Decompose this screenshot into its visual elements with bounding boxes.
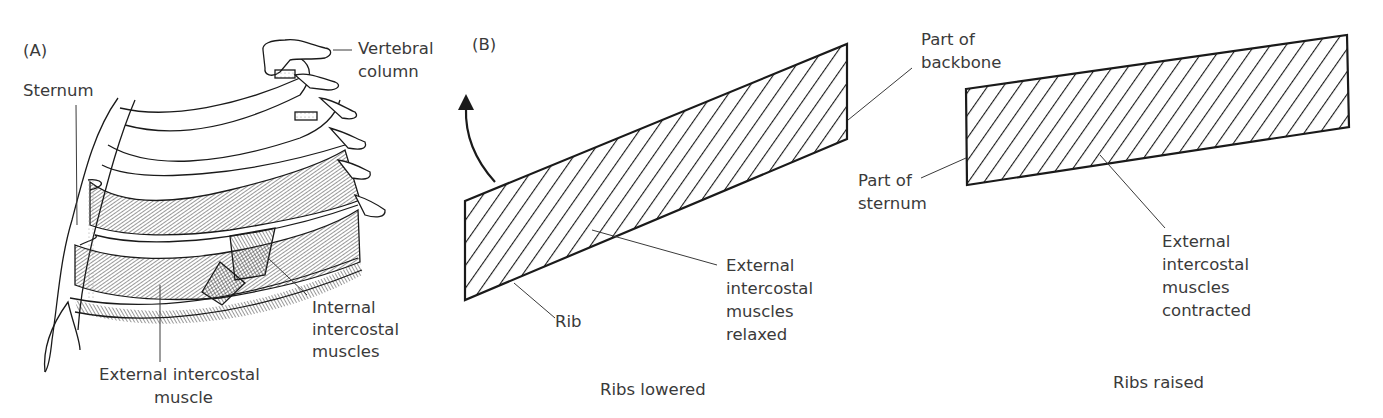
sternum-part-label-1: Part of	[858, 169, 912, 192]
muscles-relaxed-label-3: muscles	[726, 300, 794, 323]
diagram-canvas	[0, 0, 1383, 418]
muscles-contracted-label-1: External	[1162, 230, 1230, 253]
internal-intercostal-label-1: Internal	[312, 296, 376, 319]
muscles-relaxed-label-2: intercostal	[726, 277, 813, 300]
muscles-contracted-label-4: contracted	[1162, 299, 1251, 322]
rib-raised-block	[966, 35, 1349, 185]
internal-intercostal-label-3: muscles	[312, 340, 380, 363]
vertebral-column-label-1: Vertebral	[358, 37, 434, 60]
backbone-label-1: Part of	[921, 28, 975, 51]
ribs-lowered-caption: Ribs lowered	[600, 378, 706, 401]
muscles-relaxed-label-1: External	[726, 254, 794, 277]
external-intercostal-label-1: External intercostal	[99, 363, 260, 386]
panel-b-label: (B)	[472, 33, 496, 56]
sternum-label: Sternum	[23, 79, 94, 102]
rotation-arrow-icon	[458, 94, 495, 182]
panel-a-label: (A)	[23, 39, 47, 62]
vertebral-column-label-2: column	[358, 60, 419, 83]
backbone-label-2: backbone	[921, 51, 1001, 74]
muscles-relaxed-label-4: relaxed	[726, 323, 787, 346]
external-intercostal-label-2: muscle	[154, 386, 213, 409]
sternum-part-label-2: sternum	[858, 192, 927, 215]
muscles-contracted-label-3: muscles	[1162, 276, 1230, 299]
ribs-raised-caption: Ribs raised	[1113, 371, 1204, 394]
internal-intercostal-label-2: intercostal	[312, 318, 399, 341]
muscles-contracted-label-2: intercostal	[1162, 253, 1249, 276]
rib-label: Rib	[555, 310, 582, 333]
